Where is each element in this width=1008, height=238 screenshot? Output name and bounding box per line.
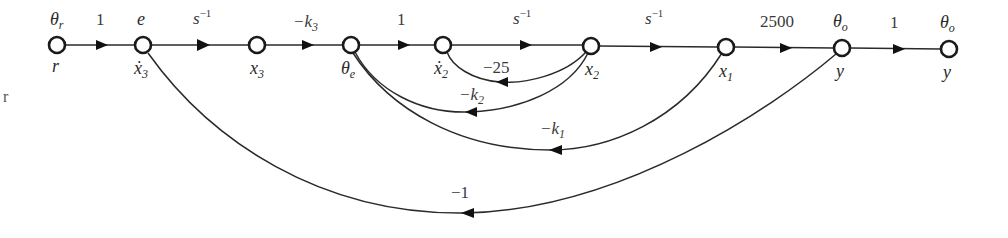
node-thetae [343, 37, 359, 53]
arrow-right-icon [197, 39, 210, 51]
node-x2 [583, 38, 599, 54]
arrow-right-icon [96, 40, 108, 50]
node-x1 [718, 39, 734, 55]
branch-gains: 1 s−1 −k3 1 s−1 s−1 2500 1 −25 −k2 −k1 −… [96, 7, 899, 202]
arrow-left-icon [549, 145, 562, 155]
node-label-bottom: x3 [249, 58, 264, 81]
stray-text-r: r [3, 88, 9, 105]
gain-label: −25 [483, 58, 510, 77]
gain-label: 1 [890, 13, 899, 32]
gain-label: s−1 [513, 7, 531, 28]
arrow-right-icon [302, 40, 314, 50]
arrow-right-icon [893, 44, 905, 54]
node-label-bottom: r [52, 56, 60, 76]
node-label-bottom: x2 [584, 59, 599, 82]
gain-label: 1 [96, 10, 105, 29]
gain-label: −k3 [293, 12, 318, 34]
node-x2dot [435, 37, 451, 53]
arrow-left-icon [465, 107, 477, 117]
arrow-right-icon [520, 40, 532, 50]
node-y [834, 40, 850, 56]
gain-label: 2500 [760, 12, 794, 31]
node-label-bottom: y [834, 61, 844, 81]
node-label-top: θo [833, 11, 848, 34]
node-label-top: e [137, 9, 145, 29]
arrow-right-icon [398, 40, 410, 50]
gain-label: −k2 [459, 85, 484, 107]
node-label-top: θr [50, 9, 64, 32]
edge-x2-to-x2dot [447, 52, 586, 82]
node-label-bottom: ẋ3 [133, 58, 148, 81]
node-r [49, 37, 65, 53]
arrow-left-icon [496, 77, 508, 87]
node-label-bottom: y [941, 62, 951, 82]
arrow-right-icon [650, 42, 662, 52]
edge-x1-to-thetae [353, 53, 722, 150]
forward-edges [65, 39, 941, 54]
arrow-right-icon [780, 43, 792, 53]
arrow-left-icon [461, 208, 474, 218]
node-label-top: θo [940, 12, 955, 35]
gain-label: −k1 [540, 119, 565, 141]
node-y-output [941, 41, 957, 57]
nodes [49, 37, 957, 57]
gain-label: s−1 [193, 7, 211, 28]
signal-flow-graph: r [0, 0, 1008, 238]
gain-label: −1 [451, 183, 469, 202]
node-label-bottom: x1 [718, 61, 733, 84]
node-x3dot [135, 37, 151, 53]
node-label-bottom: θe [341, 58, 356, 81]
node-x3 [249, 37, 265, 53]
gain-label: s−1 [645, 7, 663, 28]
gain-label: 1 [397, 10, 406, 29]
node-label-bottom: ẋ2 [433, 58, 448, 81]
